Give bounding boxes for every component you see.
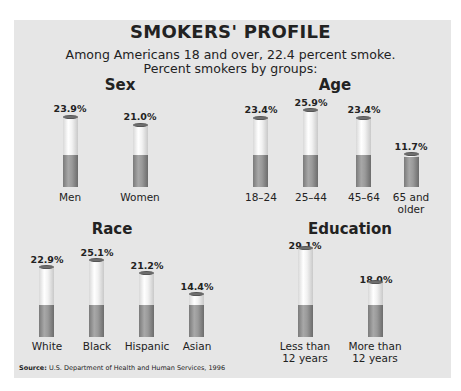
bar-white — [39, 267, 54, 337]
bar-hispanic — [139, 273, 154, 337]
bar-less-than-12 — [298, 248, 313, 337]
bar-age-65-older — [404, 154, 419, 187]
value-label: 11.7% — [386, 141, 436, 152]
group-title-age: Age — [305, 76, 365, 94]
subtitle-line-1: Among Americans 18 and over, 22.4 percen… — [0, 47, 461, 62]
bar-asian — [189, 294, 204, 337]
value-label: 22.9% — [22, 254, 72, 265]
bar-age-25-44 — [303, 110, 318, 187]
value-label: 21.0% — [115, 111, 165, 122]
group-title-sex: Sex — [90, 76, 150, 94]
value-label: 23.4% — [339, 104, 389, 115]
chart-title: SMOKERS' PROFILE — [0, 21, 461, 42]
source-note: Source: U.S. Department of Health and Hu… — [19, 364, 225, 372]
category-label: 25–44 — [281, 191, 341, 203]
value-label: 14.4% — [172, 281, 222, 292]
value-label: 21.2% — [122, 260, 172, 271]
category-label: Less than12 years — [275, 340, 335, 364]
value-label: 23.9% — [45, 103, 95, 114]
group-title-race: Race — [82, 220, 142, 238]
value-label: 25.1% — [72, 247, 122, 258]
category-label: Women — [110, 191, 170, 203]
subtitle-line-2: Percent smokers by groups: — [0, 61, 461, 76]
category-label: More than12 years — [345, 340, 405, 364]
bar-women — [133, 125, 148, 187]
value-label: 23.4% — [236, 104, 286, 115]
value-label: 25.9% — [286, 97, 336, 108]
bar-men — [63, 117, 78, 187]
bar-age-18-24 — [253, 118, 268, 187]
bar-more-than-12 — [368, 282, 383, 337]
bar-age-45-64 — [356, 118, 371, 187]
bar-black — [89, 260, 104, 337]
category-label: Men — [40, 191, 100, 203]
category-label: 65 andolder — [381, 191, 441, 215]
category-label: Asian — [167, 340, 227, 352]
group-title-education: Education — [300, 220, 400, 238]
